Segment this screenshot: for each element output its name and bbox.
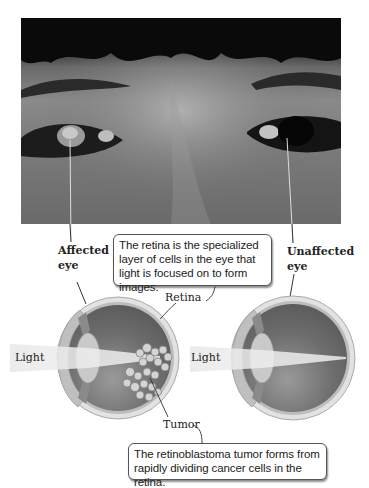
affected-eye-label-line2: eye: [58, 258, 109, 273]
retina-callout: The retina is the specialized layer of c…: [113, 234, 272, 286]
retina-callout-tail: [206, 286, 215, 301]
unaffected-leader-diagram: [290, 274, 294, 297]
unaffected-eye-label-line2: eye: [287, 259, 354, 274]
tumor-callout: The retinoblastoma tumor forms from rapi…: [128, 443, 327, 480]
affected-leader-diagram: [77, 282, 86, 304]
unaffected-eye-label-line1: Unaffected: [287, 244, 354, 259]
tumor-label: Tumor: [163, 418, 200, 431]
retina-label: Retina: [165, 291, 201, 304]
light-label-left: Light: [15, 351, 44, 364]
affected-eye-label-line1: Affected: [58, 243, 109, 258]
light-label-right: Light: [191, 351, 220, 364]
unaffected-eye-label: Unaffected eye: [287, 244, 354, 274]
affected-eye-label: Affected eye: [58, 243, 109, 273]
